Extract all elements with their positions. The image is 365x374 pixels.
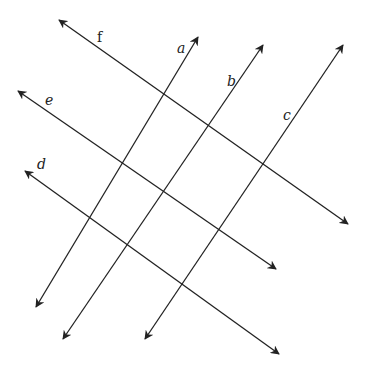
line-label-a: a — [177, 41, 185, 55]
line-e — [18, 91, 276, 269]
line-f — [59, 20, 348, 224]
lines-svg — [0, 0, 365, 374]
line-label-e: e — [45, 93, 53, 107]
line-a — [36, 37, 198, 307]
line-label-b: b — [227, 74, 236, 88]
line-label-d: d — [37, 157, 46, 171]
parallel-lines-diagram: fedabc — [0, 0, 365, 374]
line-label-c: c — [283, 108, 291, 122]
line-label-f: f — [97, 30, 102, 44]
line-b — [63, 45, 263, 339]
line-c — [145, 45, 343, 339]
